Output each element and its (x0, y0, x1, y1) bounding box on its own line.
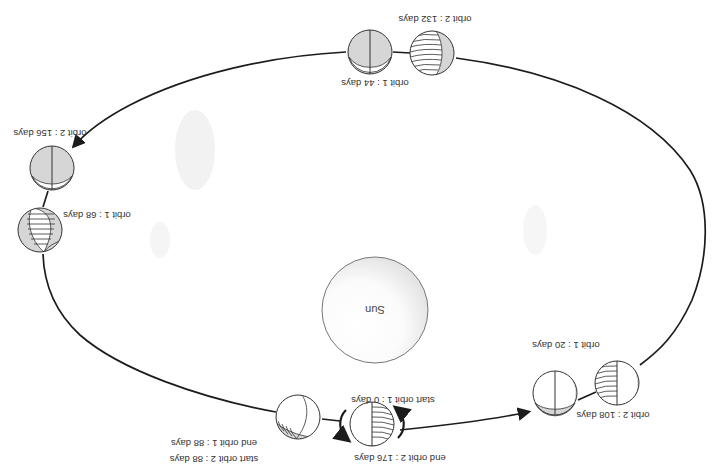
label-end-orbit-2: end orbit 2 : 176 days (354, 453, 446, 464)
label-108-days: orbit 2 : 108 days (576, 410, 649, 421)
label-156-days: orbit 2 : 156 days (13, 128, 86, 139)
label-44-days: orbit 1 : 44 days (341, 78, 409, 89)
planet-156-days (30, 146, 74, 190)
planet-44-days (348, 30, 392, 74)
background-noise (150, 110, 547, 258)
planet-132-days (410, 31, 454, 75)
label-start-orbit-2: start orbit 2 : 88 days (169, 454, 258, 465)
planet-20-days (595, 361, 641, 405)
label-20-days: orbit 1 : 20 days (532, 340, 600, 351)
planet-68-days (18, 208, 62, 252)
planet-88-days (276, 395, 320, 441)
planet-108-days (533, 371, 577, 416)
planet-0-176-days (350, 402, 394, 460)
label-start-orbit-1: start orbit 1 : 0 days (351, 395, 435, 406)
sun-label: Sun (365, 304, 385, 316)
label-68-days: orbit 1 : 68 days (63, 210, 131, 221)
label-end-orbit-1: end orbit 1 : 88 days (171, 438, 257, 449)
label-132-days: orbit 2 : 132 days (398, 14, 471, 25)
sun: Sun (322, 257, 428, 363)
orbit-diagram: Sun orbit 1 : 44 days orbit 2 : 1 (0, 0, 714, 475)
